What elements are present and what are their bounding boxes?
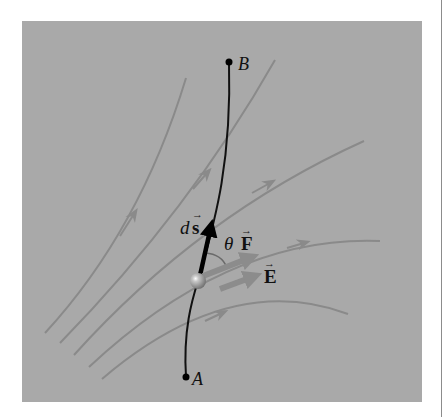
- ds-label-arrow: →: [192, 208, 203, 220]
- test-charge: [190, 273, 206, 289]
- point-a-dot: [183, 374, 190, 381]
- ds-label-symbol: s: [192, 217, 199, 238]
- electric-field-diagram: B A d s → θ F → E →: [0, 0, 444, 417]
- field-label-symbol: E: [264, 266, 277, 287]
- angle-label: θ: [224, 233, 233, 254]
- point-b-dot: [226, 59, 233, 66]
- point-b-label: B: [238, 54, 249, 74]
- force-label-arrow: →: [241, 224, 252, 236]
- point-a-label: A: [191, 369, 204, 389]
- force-label-symbol: F: [241, 233, 253, 254]
- ds-label-prefix: d: [180, 217, 190, 238]
- field-label-arrow: →: [264, 257, 275, 269]
